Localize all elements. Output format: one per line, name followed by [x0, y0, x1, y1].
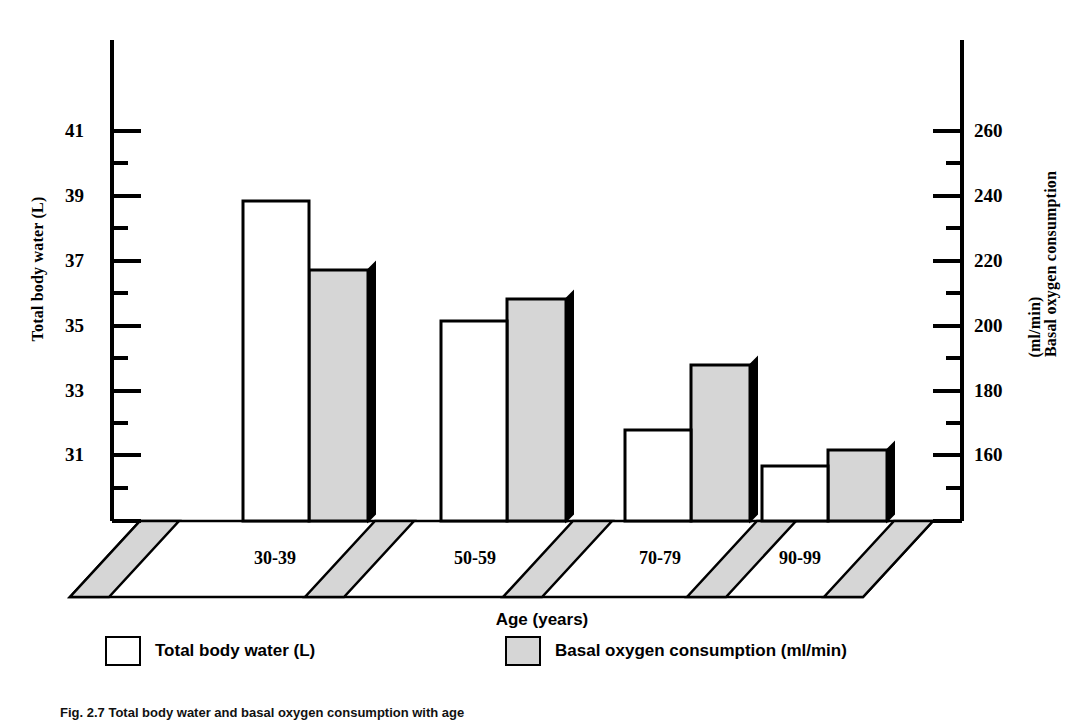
bar-group-30-39 [243, 201, 375, 521]
right-axis-spine [933, 40, 962, 521]
bar-total-body-water-70-79[interactable] [625, 430, 691, 521]
left-tick-label-41: 41 [40, 121, 84, 140]
white-square-swatch-icon [105, 636, 141, 666]
right-tick-label-260: 260 [974, 121, 1034, 140]
bar-basal-oxygen-30-39[interactable] [309, 263, 375, 521]
left-tick-label-37: 37 [40, 251, 84, 270]
right-tick-label-240: 240 [974, 186, 1034, 205]
bar-group-70-79 [625, 358, 757, 521]
bar-basal-oxygen-70-79[interactable] [691, 358, 757, 521]
left-tick-label-33: 33 [40, 381, 84, 400]
legend-item-basal-oxygen-consumption[interactable]: Basal oxygen consumption (ml/min) [505, 636, 847, 666]
right-axis-title-line1: Basal oxygen consumption [1042, 149, 1060, 379]
figure-caption: Fig. 2.7 Total body water and basal oxyg… [60, 705, 960, 720]
left-tick-label-31: 31 [40, 445, 84, 464]
bar-group-90-99 [762, 443, 894, 521]
legend-label-total-body-water: Total body water (L) [155, 641, 315, 661]
bar-group-50-59 [441, 292, 573, 521]
bar-basal-oxygen-90-99[interactable] [828, 443, 894, 521]
category-label-90-99: 90-99 [740, 548, 860, 569]
right-tick-label-220: 220 [974, 251, 1034, 270]
bar-total-body-water-90-99[interactable] [762, 466, 828, 521]
left-tick-label-39: 39 [40, 186, 84, 205]
legend-item-total-body-water[interactable]: Total body water (L) [105, 636, 315, 666]
right-tick-label-160: 160 [974, 445, 1034, 464]
right-tick-label-180: 180 [974, 381, 1034, 400]
x-axis-title: Age (years) [0, 610, 1084, 630]
bar-basal-oxygen-50-59[interactable] [507, 292, 573, 521]
category-label-50-59: 50-59 [415, 548, 535, 569]
left-axis-spine [112, 40, 141, 521]
legend-label-basal-oxygen-consumption: Basal oxygen consumption (ml/min) [555, 641, 847, 661]
left-tick-label-35: 35 [40, 316, 84, 335]
category-label-30-39: 30-39 [215, 548, 335, 569]
right-tick-label-200: 200 [974, 316, 1034, 335]
bar-total-body-water-30-39[interactable] [243, 201, 309, 521]
category-label-70-79: 70-79 [600, 548, 720, 569]
gray-square-swatch-icon [505, 636, 541, 666]
bar-total-body-water-50-59[interactable] [441, 321, 507, 521]
legend: Total body water (L) Basal oxygen consum… [0, 636, 1084, 676]
